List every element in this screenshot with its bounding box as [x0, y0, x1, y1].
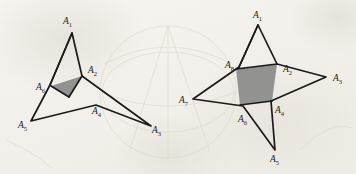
right-edge-a8-a1 [239, 25, 258, 67]
label-a2-right: A2 [282, 64, 292, 76]
left-shaded-triangle [51, 76, 82, 97]
left-edge-a6-a1 [50, 33, 72, 85]
label-a6-left: A6 [35, 82, 46, 94]
bleed-stray-icon [300, 126, 352, 150]
label-a3-left: A3 [151, 125, 161, 137]
left-panel-six-pointed-star: A1A2A3A4A5A6 [17, 16, 161, 137]
bleed-line-a-icon [130, 26, 168, 150]
right-panel-eight-pointed-star: A1A2A3A4A5A6A7A8 [178, 10, 342, 166]
label-a2-left: A2 [87, 65, 97, 77]
left-star-polygon-outline [31, 33, 151, 126]
right-shaded-quadrilateral [236, 64, 277, 105]
bleed-line-b-icon [168, 26, 210, 152]
label-a1-right: A1 [252, 10, 262, 22]
figure-page: A1A2A3A4A5A6 A1A2A3A4A5A6A7A8 [0, 0, 356, 174]
label-a5-left: A5 [17, 120, 27, 132]
label-a8-right: A8 [224, 60, 234, 72]
geometry-figure: A1A2A3A4A5A6 A1A2A3A4A5A6A7A8 [0, 0, 356, 174]
bleed-stray2-icon [6, 140, 52, 168]
label-a1-left: A1 [62, 16, 72, 28]
label-a6-right: A6 [237, 114, 248, 126]
label-a3-right: A3 [332, 73, 342, 85]
label-a4-left: A4 [91, 106, 102, 118]
label-a4-right: A4 [274, 105, 285, 117]
label-a7-right: A7 [178, 95, 189, 107]
label-a5-right: A5 [269, 154, 279, 166]
